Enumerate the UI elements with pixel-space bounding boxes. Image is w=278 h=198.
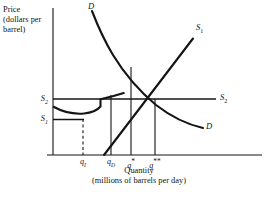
price-label-s2: S2 [26,94,48,105]
curve-label-supply-s1: S1 [196,22,203,34]
curve-label-demand-top: D [88,1,94,11]
x-tick-label-qd: qD [101,157,121,168]
x-tick-label-qstar: q* [121,157,141,170]
curve-label-demand-bottom: D [206,121,212,131]
supply-demand-figure: Price (dollars per barrel) Quantity (mil… [0,0,278,198]
y-axis-title: Price (dollars per barrel) [3,5,41,36]
price-label-s1: S1 [26,114,48,125]
demand-curve [92,11,203,128]
x-tick-label-qi: qI [73,157,93,168]
curve-label-supply-s2: S2 [220,92,227,104]
supply-curve-s1-rising [104,39,193,156]
supply-curve-stepped [53,93,125,114]
x-tick-label-qdoublestar: q** [144,157,166,170]
